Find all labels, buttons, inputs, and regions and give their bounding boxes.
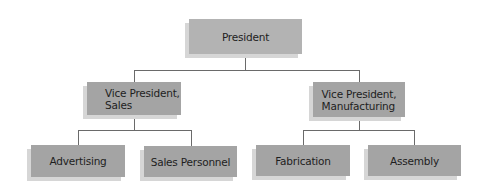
connector-vp-sales-down <box>134 115 135 130</box>
node-president: President <box>189 19 302 54</box>
node-vp-sales: Vice President, Sales <box>87 82 181 115</box>
node-label-line2: Manufacturing <box>322 100 397 112</box>
connector-vp-mfg-up <box>359 70 360 82</box>
node-label-line2: Sales <box>105 99 180 111</box>
connector-level1-bar <box>134 70 360 71</box>
connector-mfg-bar <box>303 130 415 131</box>
connector-sales-bar <box>78 130 192 131</box>
node-assembly: Assembly <box>368 145 461 176</box>
node-fabrication: Fabrication <box>256 145 350 176</box>
connector-sales-personnel-up <box>191 130 192 146</box>
node-label: Fabrication <box>275 155 331 167</box>
connector-vp-mfg-down <box>359 117 360 130</box>
connector-vp-sales-up <box>134 70 135 82</box>
connector-fabrication-up <box>303 130 304 145</box>
node-label: Sales Personnel <box>151 156 231 168</box>
node-advertising: Advertising <box>31 145 125 177</box>
node-vp-manufacturing: Vice President, Manufacturing <box>313 82 405 117</box>
node-label: Advertising <box>49 155 106 167</box>
node-label: President <box>222 31 269 43</box>
node-label-line1: Vice President, <box>105 87 180 99</box>
node-label-line1: Vice President, <box>322 88 397 100</box>
org-chart: President Vice President, Sales Vice Pre… <box>0 0 488 195</box>
connector-advertising-up <box>78 130 79 145</box>
connector-president-down <box>245 54 246 70</box>
node-sales-personnel: Sales Personnel <box>144 146 237 177</box>
node-label: Assembly <box>390 155 439 167</box>
connector-assembly-up <box>414 130 415 145</box>
